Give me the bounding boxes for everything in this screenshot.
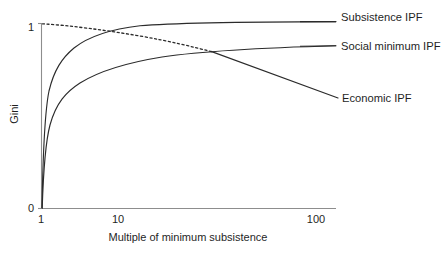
ipf-line-chart: 1 0 1 10 100 Multiple of minimum subsist… [0, 0, 444, 254]
x-tick-label-1: 1 [38, 213, 44, 225]
y-tick-label-1: 1 [28, 21, 34, 33]
x-axis-title: Multiple of minimum subsistence [109, 231, 268, 243]
x-tick-label-100: 100 [307, 213, 325, 225]
chart-figure: 1 0 1 10 100 Multiple of minimum subsist… [0, 0, 444, 254]
leader-line-social-minimum [300, 46, 336, 47]
y-axis-title: Gini [8, 104, 20, 124]
x-tick-label-10: 10 [112, 213, 124, 225]
y-tick-label-0: 0 [28, 202, 34, 214]
series-label-economic-ipf: Economic IPF [342, 92, 412, 104]
series-line-economic-ipf [211, 51, 338, 98]
series-label-social-minimum-ipf: Social minimum IPF [341, 40, 441, 52]
series-label-subsistence-ipf: Subsistence IPF [341, 11, 423, 23]
series-line-social-minimum-ipf [42, 46, 336, 208]
series-line-subsistence-ipf [42, 22, 336, 208]
